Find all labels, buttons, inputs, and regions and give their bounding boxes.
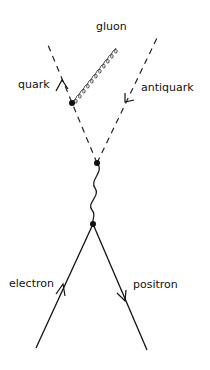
feynman-diagram: gluon quark antiquark electron positron bbox=[0, 0, 210, 370]
vertex-quark-annihilation bbox=[94, 160, 100, 166]
label-electron: electron bbox=[9, 277, 54, 290]
label-positron: positron bbox=[133, 278, 178, 291]
gluon-line bbox=[72, 48, 117, 103]
antiquark-line bbox=[97, 38, 157, 163]
vertex-lepton-annihilation bbox=[90, 221, 96, 227]
label-antiquark: antiquark bbox=[141, 81, 194, 94]
label-quark: quark bbox=[18, 78, 50, 91]
label-gluon: gluon bbox=[96, 20, 127, 33]
photon-line bbox=[91, 163, 100, 224]
vertex-gluon-emission bbox=[69, 100, 75, 106]
